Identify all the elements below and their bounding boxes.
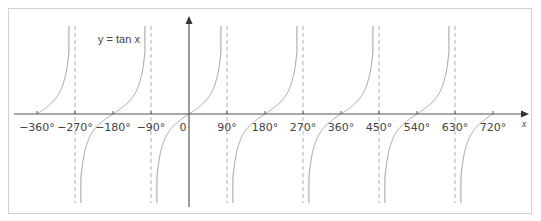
y-axis-arrow-icon	[186, 16, 193, 24]
x-tick-label: 630°	[442, 121, 469, 134]
x-tick-label: 0	[180, 121, 187, 134]
x-tick-label: −360°	[19, 121, 55, 134]
x-axis-arrow-icon	[521, 111, 529, 118]
x-tick-label: −180°	[95, 121, 131, 134]
tan-chart: −360°−270°−180°−90°090°180°270°360°450°5…	[0, 0, 541, 221]
x-tick-label: 90°	[217, 121, 237, 134]
x-tick-label: 270°	[290, 121, 317, 134]
x-tick-label: −270°	[57, 121, 93, 134]
x-tick-label: 540°	[404, 121, 431, 134]
x-tick-label: 450°	[366, 121, 393, 134]
x-axis-label: x	[521, 118, 527, 129]
function-label: y = tan x	[98, 33, 140, 45]
x-tick-label: 360°	[328, 121, 355, 134]
x-tick-label: 180°	[252, 121, 279, 134]
x-tick-label: −90°	[137, 121, 166, 134]
x-tick-label: 720°	[480, 121, 507, 134]
tan-branch	[37, 26, 69, 114]
